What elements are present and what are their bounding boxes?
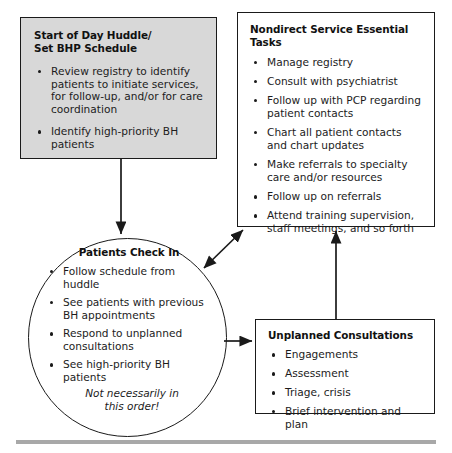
list-item: Review registry to identify patients to … [34,65,205,117]
list-item: Attend training supervision, staff meeti… [250,209,424,235]
list-item: Manage registry [250,56,424,69]
list-item: See patients with previous BH appointmen… [45,296,213,322]
list-item: Make referrals to specialty care and/or … [250,158,424,184]
list-item: Chart all patient contacts and chart upd… [250,126,424,152]
checkin-note-line1: Not necessarily in [51,387,213,400]
list-item: Triage, crisis [268,386,426,399]
nondirect-bullet-list: Manage registry Consult with psychiatris… [250,56,424,235]
divider [16,440,436,444]
node-title-nondirect: Nondirect Service Essential Tasks [250,23,424,50]
list-item: Brief intervention and plan [268,405,426,431]
node-start-of-day-huddle: Start of Day Huddle/ Set BHP Schedule Re… [20,17,217,159]
checkin-bullet-list: Follow schedule from huddle See patients… [45,265,213,385]
list-item: Respond to unplanned consultations [45,327,213,353]
checkin-note-line2: this order! [51,400,213,413]
node-patients-check-in: Patients Check In Follow schedule from h… [28,238,227,437]
node-title-checkin: Patients Check In [45,246,213,259]
checkin-note: Not necessarily in this order! [51,387,213,412]
list-item: Follow schedule from huddle [45,265,213,291]
node-title-unplanned: Unplanned Consultations [268,329,426,342]
list-item: Identify high-priority BH patients [34,125,205,151]
huddle-bullet-list: Review registry to identify patients to … [34,65,205,152]
node-nondirect-service-essential-tasks: Nondirect Service Essential Tasks Manage… [237,12,435,227]
diagram-canvas: Start of Day Huddle/ Set BHP Schedule Re… [0,0,452,453]
huddle-title-line2: Set BHP Schedule [34,42,205,55]
node-title-huddle: Start of Day Huddle/ Set BHP Schedule [34,29,205,56]
list-item: Assessment [268,367,426,380]
list-item: Engagements [268,348,426,361]
list-item: See high-priority BH patients [45,358,213,384]
list-item: Consult with psychiatrist [250,75,424,88]
unplanned-bullet-list: Engagements Assessment Triage, crisis Br… [268,348,426,431]
node-unplanned-consultations: Unplanned Consultations Engagements Asse… [255,319,435,414]
list-item: Follow up on referrals [250,190,424,203]
huddle-title-line1: Start of Day Huddle/ [34,29,152,41]
list-item: Follow up with PCP regarding patient con… [250,94,424,120]
